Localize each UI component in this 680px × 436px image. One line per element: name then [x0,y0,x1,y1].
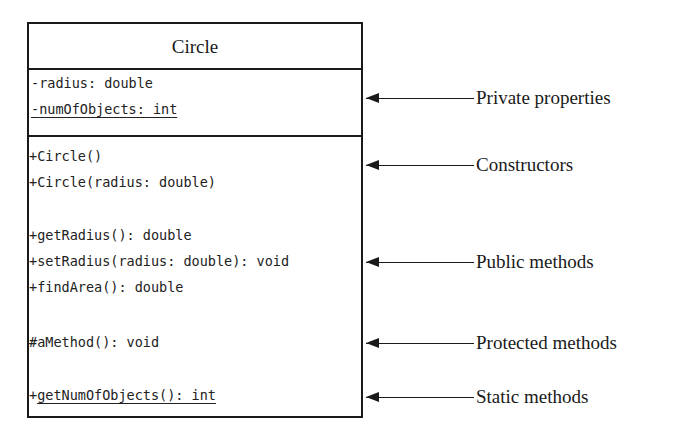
visibility-public: + [29,148,37,164]
method-text: Circle(radius: double) [37,174,216,190]
methods-compartment: +Circle() +Circle(radius: double) +getRa… [29,137,361,416]
method-text: setRadius(radius: double): void [37,253,289,269]
arrow-line [366,262,474,263]
method-text: aMethod(): void [37,334,159,350]
arrow-line [366,165,474,166]
annotation-label: Protected methods [476,332,617,354]
arrow-line [366,343,474,344]
annotation-label: Static methods [476,386,588,408]
method-text: getNumOfObjects(): int [37,387,216,403]
method-aMethod: #aMethod(): void [29,333,159,351]
arrow-line [366,98,474,99]
attribute-text: numOfObjects: int [39,101,177,117]
method-text: Circle() [37,148,102,164]
visibility-public: + [29,174,37,190]
method-text: getRadius(): double [37,227,191,243]
uml-class-box: Circle -radius: double -numOfObjects: in… [27,22,363,418]
visibility-private: - [31,101,39,117]
method-text: findArea(): double [37,279,183,295]
method-constructor-radius: +Circle(radius: double) [29,173,216,191]
method-findArea: +findArea(): double [29,278,183,296]
attribute-numOfObjects: -numOfObjects: int [31,100,177,118]
method-constructor-default: +Circle() [29,147,102,165]
attribute-text: radius: double [39,75,153,91]
attribute-radius: -radius: double [31,74,153,92]
visibility-public: + [29,253,37,269]
class-name: Circle [29,24,361,70]
visibility-public: + [29,227,37,243]
annotation-label: Private properties [476,87,611,109]
annotation-label: Constructors [476,154,573,176]
method-getNumOfObjects: +getNumOfObjects(): int [29,386,216,404]
arrow-line [366,397,474,398]
attributes-compartment: -radius: double -numOfObjects: int [29,70,361,137]
visibility-protected: # [29,334,37,350]
method-setRadius: +setRadius(radius: double): void [29,252,289,270]
annotation-label: Public methods [476,251,594,273]
visibility-public: + [29,279,37,295]
visibility-private: - [31,75,39,91]
method-getRadius: +getRadius(): double [29,226,192,244]
visibility-public: + [29,387,37,403]
